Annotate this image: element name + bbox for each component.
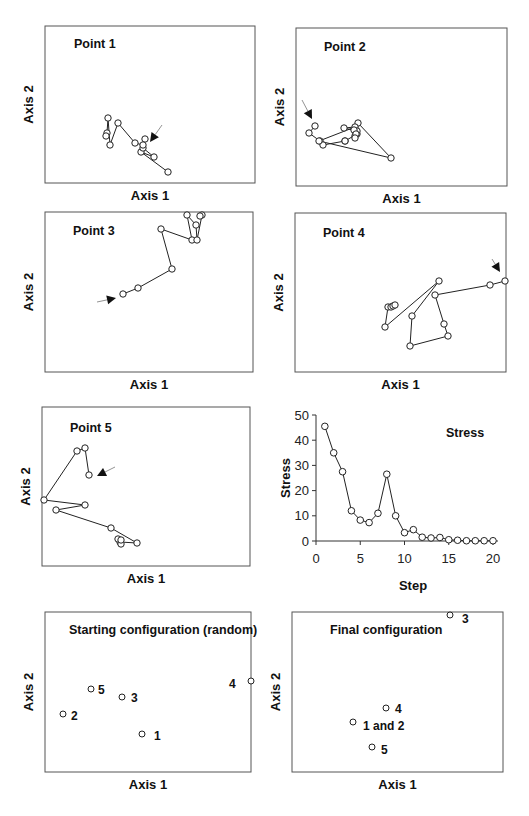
panel-p2: Point 2Axis 1Axis 2 <box>272 28 507 206</box>
trajectory-point <box>436 278 442 284</box>
trajectory-point <box>169 266 175 272</box>
trajectory-point <box>409 313 415 319</box>
stress-point <box>437 534 444 541</box>
stress-point <box>348 507 355 514</box>
trajectory-point <box>108 525 114 531</box>
start-x-axis-label: Axis 1 <box>129 777 167 792</box>
p3-y-axis-label: Axis 2 <box>21 273 36 311</box>
trajectory-point <box>74 448 80 454</box>
config-point-label: 5 <box>98 683 105 697</box>
final-title: Final configuration <box>330 623 443 637</box>
y-tick-label: 0 <box>302 534 309 549</box>
p5-x-axis-label: Axis 1 <box>127 571 165 586</box>
panel-title: Point 3 <box>73 224 115 238</box>
config-point-label: 3 <box>462 612 469 626</box>
start-title: Starting configuration (random) <box>69 623 257 637</box>
x-tick-label: 20 <box>486 551 500 566</box>
trajectory-point <box>441 321 447 327</box>
config-point-label: 2 <box>71 709 78 723</box>
p2-x-axis-label: Axis 1 <box>382 191 420 206</box>
x-tick-label: 0 <box>312 551 319 566</box>
stress-point <box>454 537 461 544</box>
stress-x-axis-label: Step <box>399 578 427 593</box>
panel-title: Point 2 <box>324 40 366 54</box>
config-point <box>119 694 125 700</box>
trajectory-point <box>407 343 413 349</box>
start-arrow-shaft <box>97 300 107 302</box>
stress-point <box>490 537 497 544</box>
p3-x-axis-label: Axis 1 <box>130 377 168 392</box>
x-tick-label: 5 <box>357 551 364 566</box>
trajectory-point <box>120 291 126 297</box>
starting-configuration-chart: Starting configuration (random)12345Axis… <box>21 612 257 792</box>
trajectory-point <box>134 540 140 546</box>
config-point <box>350 719 356 725</box>
trajectory-point <box>184 212 190 218</box>
config-point <box>248 678 254 684</box>
panel-p1: Point 1Axis 1Axis 2 <box>21 26 255 203</box>
y-tick-label: 40 <box>295 433 309 448</box>
x-tick-label: 10 <box>397 551 411 566</box>
trajectory-line <box>44 448 137 544</box>
config-point <box>383 705 389 711</box>
trajectory-point <box>165 169 171 175</box>
trajectory-point <box>140 142 146 148</box>
config-point-label: 3 <box>131 691 138 705</box>
stress-point <box>419 534 426 541</box>
panel-title: Point 1 <box>74 37 116 51</box>
config-point-label: 5 <box>381 743 388 757</box>
trajectory-point <box>115 120 121 126</box>
trajectory-point <box>118 537 124 543</box>
start-arrow-shaft <box>155 125 162 135</box>
config-point <box>139 731 145 737</box>
config-point-label: 4 <box>395 702 402 716</box>
start-arrow-shaft <box>105 467 115 472</box>
trajectory-point <box>53 507 59 513</box>
y-tick-label: 20 <box>295 483 309 498</box>
trajectory-point <box>86 472 92 478</box>
p5-y-axis-label: Axis 2 <box>18 467 33 505</box>
p2-y-axis-label: Axis 2 <box>272 88 287 126</box>
stress-y-axis-label: Stress <box>278 458 293 498</box>
panel-title: Point 5 <box>70 421 112 435</box>
panel-p5: Point 5Axis 1Axis 2 <box>18 407 250 586</box>
p4-x-axis-label: Axis 1 <box>381 377 419 392</box>
trajectory-point <box>432 292 438 298</box>
trajectory-point <box>82 502 88 508</box>
trajectory-point <box>197 213 203 219</box>
config-point <box>369 744 375 750</box>
config-point-label: 1 <box>154 729 161 743</box>
stress-chart: 0102030405005101520StressStepStress <box>278 408 500 594</box>
trajectory-point <box>193 222 199 228</box>
stress-point <box>428 535 435 542</box>
config-point <box>60 711 66 717</box>
final-configuration-chart: Final configuration341 and 25Axis 1Axis … <box>268 612 503 792</box>
trajectory-point <box>445 333 451 339</box>
trajectory-point <box>41 497 47 503</box>
trajectory-point <box>316 138 322 144</box>
trajectory-point <box>306 130 312 136</box>
p1-x-axis-label: Axis 1 <box>131 188 169 203</box>
y-tick-label: 30 <box>295 458 309 473</box>
stress-point <box>330 450 337 457</box>
stress-point <box>322 423 329 430</box>
stress-point <box>481 537 488 544</box>
panel-p4: Point 4Axis 1Axis 2 <box>271 213 508 392</box>
stress-point <box>339 468 346 475</box>
trajectory-point <box>158 226 164 232</box>
config-point <box>88 686 94 692</box>
panel-p3: Point 3Axis 1Axis 2 <box>21 212 253 392</box>
p4-y-axis-label: Axis 2 <box>271 273 286 311</box>
p1-y-axis-label: Axis 2 <box>21 85 36 123</box>
trajectory-point <box>312 123 318 129</box>
trajectory-point <box>135 285 141 291</box>
trajectory-point <box>194 237 200 243</box>
start-arrow-head-icon <box>150 132 159 142</box>
y-tick-label: 50 <box>295 408 309 423</box>
trajectory-point <box>382 324 388 330</box>
config-point <box>447 612 453 618</box>
stress-point <box>445 536 452 543</box>
trajectory-point <box>107 142 113 148</box>
stress-point <box>401 529 408 536</box>
stress-line <box>325 426 493 540</box>
